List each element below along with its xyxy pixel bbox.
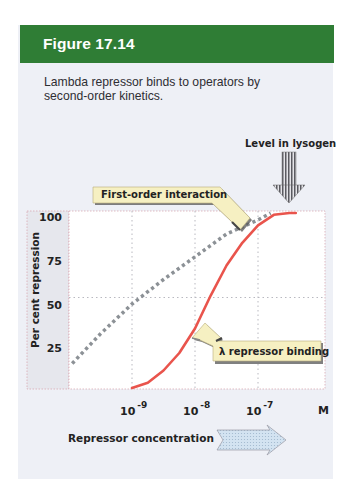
concentration-arrow-icon: [217, 425, 286, 455]
figure-card: Figure 17.14 Lambda repressor binds to o…: [0, 0, 354, 496]
level-in-lysogen-label: Level in lysogen: [245, 138, 336, 149]
y-axis-label: Per cent repression: [29, 232, 41, 348]
x-tick-label: 10-9: [120, 402, 147, 418]
level-in-lysogen-arrow-icon: [273, 152, 305, 203]
repressor-callout-label: λ repressor binding: [219, 346, 329, 357]
x-direction-label: Repressor concentration: [68, 432, 214, 444]
x-tick-label: 10-8: [183, 402, 210, 418]
x-unit-label: M: [318, 404, 329, 417]
x-tick-label: 10-7: [246, 402, 273, 418]
y-tick-label: 100: [32, 211, 62, 224]
first-order-callout-label: First-order interaction: [101, 189, 227, 200]
chart: [0, 0, 354, 496]
